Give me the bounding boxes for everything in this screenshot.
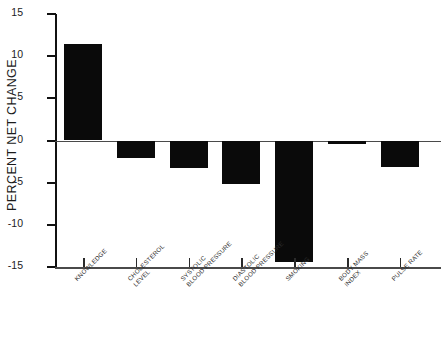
y-tick-mark <box>47 97 56 99</box>
y-tick-mark <box>47 224 56 226</box>
y-tick-mark <box>47 55 56 57</box>
bar <box>328 141 366 144</box>
bar <box>64 44 102 141</box>
bar <box>381 141 419 168</box>
bar <box>222 141 260 184</box>
bar <box>117 141 155 159</box>
y-tick-label: 15 <box>11 6 23 18</box>
bar <box>170 141 208 169</box>
y-tick-label: -5 <box>14 175 23 187</box>
y-tick-label: -10 <box>8 217 23 229</box>
chart-figure: PERCENT NET CHANGE 151050-5-10-15 KNOWLE… <box>0 0 441 340</box>
y-tick-mark <box>47 13 56 15</box>
y-tick-label: 5 <box>17 90 23 102</box>
y-tick-label: -15 <box>8 259 23 271</box>
y-tick-label: 0 <box>17 133 23 145</box>
y-tick-label: 10 <box>11 48 23 60</box>
y-tick-mark <box>47 182 56 184</box>
plot-area: 151050-5-10-15 <box>55 14 441 267</box>
